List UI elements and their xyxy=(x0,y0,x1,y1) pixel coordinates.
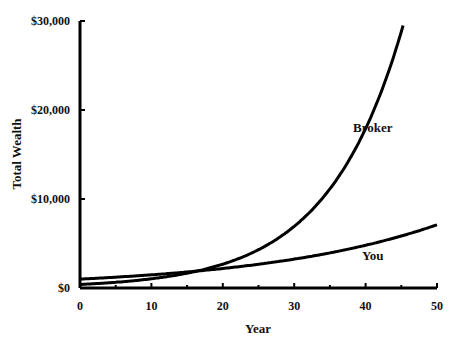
y-tick-label: $30,000 xyxy=(31,14,70,28)
x-axis-title: Year xyxy=(245,321,271,336)
x-tick-label: 40 xyxy=(360,299,372,313)
series-lines xyxy=(80,26,437,285)
y-axis: $0$10,000$20,000$30,000 xyxy=(31,14,85,295)
x-axis: 01020304050 xyxy=(77,283,443,313)
y-tick-label: $20,000 xyxy=(31,103,70,117)
wealth-growth-chart: $0$10,000$20,000$30,000 01020304050 Year… xyxy=(0,0,453,344)
x-tick-label: 50 xyxy=(431,299,443,313)
x-tick-label: 30 xyxy=(288,299,300,313)
series-label-you: You xyxy=(362,248,384,263)
x-tick-label: 0 xyxy=(77,299,83,313)
series-label-broker: Broker xyxy=(353,120,393,135)
x-tick-label: 10 xyxy=(145,299,157,313)
y-tick-label: $0 xyxy=(58,281,70,295)
y-axis-title: Total Wealth xyxy=(9,118,24,190)
series-line-broker xyxy=(80,26,403,285)
x-tick-label: 20 xyxy=(217,299,229,313)
y-tick-label: $10,000 xyxy=(31,192,70,206)
